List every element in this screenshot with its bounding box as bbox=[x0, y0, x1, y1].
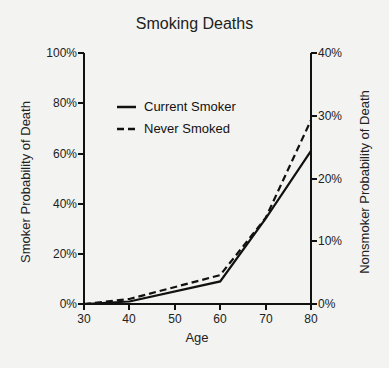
left-y-axis-title: Smoker Probability of Death bbox=[18, 101, 33, 263]
never-smoked-line bbox=[84, 120, 311, 304]
right-y-axis-title: Nonsmoker Probability of Death bbox=[357, 90, 372, 274]
right-tick-label: 40% bbox=[318, 46, 342, 60]
right-tick-label: 10% bbox=[318, 234, 342, 248]
legend-label-current-smoker: Current Smoker bbox=[144, 99, 236, 114]
left-tick-label: 40% bbox=[53, 197, 77, 211]
x-tick-label: 30 bbox=[77, 312, 91, 326]
right-tick-label: 30% bbox=[318, 109, 342, 123]
left-tick-label: 100% bbox=[46, 46, 77, 60]
x-axis bbox=[84, 304, 311, 310]
legend: Current Smoker Never Smoked bbox=[117, 99, 236, 136]
x-tick-label: 40 bbox=[122, 312, 136, 326]
right-tick-label: 0% bbox=[318, 297, 336, 311]
left-tick-label: 60% bbox=[53, 147, 77, 161]
x-tick-label: 60 bbox=[213, 312, 227, 326]
left-tick-label: 80% bbox=[53, 96, 77, 110]
right-tick-label: 20% bbox=[318, 172, 342, 186]
left-tick-label: 20% bbox=[53, 247, 77, 261]
left-y-axis bbox=[78, 53, 84, 305]
x-tick-label: 50 bbox=[168, 312, 182, 326]
x-tick-label: 70 bbox=[259, 312, 273, 326]
x-axis-title: Age bbox=[185, 330, 208, 345]
legend-label-never-smoked: Never Smoked bbox=[144, 121, 230, 136]
left-tick-label: 0% bbox=[60, 297, 78, 311]
right-y-axis bbox=[311, 53, 317, 305]
x-tick-label: 80 bbox=[304, 312, 318, 326]
chart-canvas: 0% 20% 40% 60% 80% 100% 0% 10% 20% 30% 4… bbox=[0, 0, 389, 368]
